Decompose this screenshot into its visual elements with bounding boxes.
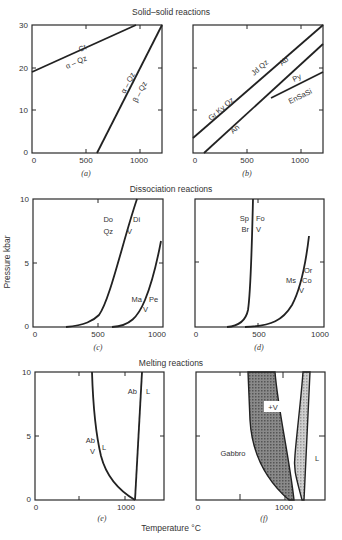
section-title-dissociation: Dissociation reactions	[130, 184, 213, 194]
label-beta-qz: β – Qz	[131, 80, 149, 104]
xtick-0: 0	[32, 156, 37, 165]
section-title-melting: Melting reactions	[139, 358, 203, 368]
ytick-0: 0	[25, 322, 30, 331]
label-ab-2: Ab	[128, 387, 137, 396]
label-gr-ky-qz: Gr Ky Qz	[206, 95, 235, 122]
panel-e-caption: (e)	[98, 514, 107, 523]
ytick-10: 10	[22, 368, 31, 377]
panel-b-caption: (b)	[242, 169, 252, 178]
x-axis-label: Temperature °C	[141, 523, 201, 533]
panel-e-frame	[35, 372, 164, 500]
label-co: Co	[302, 276, 312, 285]
label-l-1: L	[102, 443, 106, 452]
section-title-solid-solid: Solid–solid reactions	[132, 7, 210, 17]
gabbro-wet-melting-region	[248, 372, 294, 500]
panel-c-caption: (c)	[94, 343, 103, 352]
label-v-1: V	[127, 227, 132, 236]
label-do: Do	[103, 215, 113, 224]
panel-c: 10 5 0 0 500 1000 (c) Do Qz Di V Ma Pe V	[20, 195, 166, 352]
xtick-0: 0	[196, 503, 201, 512]
xtick-500: 500	[79, 156, 93, 165]
panel-b: 0 500 1000 (b) Jd Qz Ab Gr Ky Qz An Py E…	[193, 25, 323, 178]
label-v-2: V	[143, 305, 148, 314]
panel-f-caption: (f)	[260, 514, 268, 523]
xtick-500: 500	[240, 156, 254, 165]
label-di: Di	[133, 215, 140, 224]
label-plus-v: +V	[268, 403, 277, 412]
label-or: Or	[304, 266, 313, 275]
label-v-1: V	[256, 225, 261, 234]
panel-f: 0 1000 (f) +V Gabbro L	[196, 372, 325, 523]
label-sp: Sp	[240, 214, 249, 223]
ytick-5: 5	[25, 259, 30, 268]
xtick-0: 0	[33, 330, 38, 339]
label-l-2: L	[146, 387, 150, 396]
label-v-2: V	[299, 286, 304, 295]
ytick-10: 10	[19, 106, 28, 115]
label-pe: Pe	[149, 295, 158, 304]
ytick-20: 20	[19, 64, 28, 73]
xtick-0: 0	[34, 503, 39, 512]
xtick-1000: 1000	[117, 503, 135, 512]
gabbro-dry-melting-region	[294, 372, 310, 500]
figure-canvas: Solid–solid reactions Dissociation react…	[0, 0, 342, 540]
label-br: Br	[242, 225, 250, 234]
label-l: L	[315, 454, 319, 463]
label-ensasi: EnSaSi	[287, 87, 314, 106]
xtick-0: 0	[193, 156, 198, 165]
ytick-0: 0	[27, 495, 32, 504]
label-an: An	[228, 123, 241, 136]
panel-a-caption: (a)	[81, 169, 91, 178]
panel-e: 10 5 0 0 1000 (e) Ab V L Ab L	[22, 368, 164, 523]
panel-d-caption: (d)	[254, 343, 264, 352]
panel-a: 30 20 10 0 0 500 1000 (a) Ct α – Qz α – …	[19, 21, 162, 178]
xtick-1000: 1000	[148, 330, 166, 339]
xtick-500: 500	[91, 330, 105, 339]
label-qz: Qz	[103, 227, 113, 236]
xtick-0: 0	[194, 330, 199, 339]
label-v: V	[90, 447, 95, 456]
xtick-1000: 1000	[291, 156, 309, 165]
y-axis-label: Pressure kbar	[2, 235, 12, 288]
panel-d: 0 500 1000 (d) Sp Br Fo V Ms Or Co V	[194, 199, 330, 352]
xtick-500: 500	[252, 330, 266, 339]
label-ab: Ab	[277, 55, 290, 68]
label-ma: Ma	[132, 295, 143, 304]
xtick-1000: 1000	[311, 330, 329, 339]
label-ab-1: Ab	[86, 436, 95, 445]
ytick-5: 5	[27, 432, 32, 441]
ma-pe-v-curve	[112, 241, 161, 327]
ytick-0: 0	[24, 148, 29, 157]
label-ms: Ms	[286, 276, 296, 285]
xtick-1000: 1000	[130, 156, 148, 165]
ms-or-co-v-curve	[245, 236, 309, 327]
do-qz-di-v-curve	[66, 199, 137, 327]
label-fo: Fo	[256, 214, 265, 223]
label-gabbro: Gabbro	[220, 449, 245, 458]
ytick-30: 30	[19, 21, 28, 30]
ytick-10: 10	[20, 195, 29, 204]
xtick-1000: 1000	[275, 503, 293, 512]
